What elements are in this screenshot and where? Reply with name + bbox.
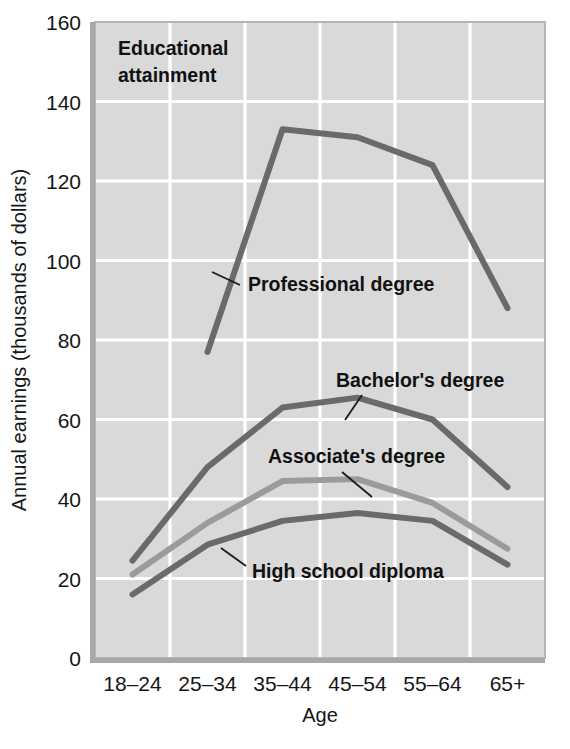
x-axis-title: Age [302, 704, 338, 726]
series-label-2: Associate's degree [268, 445, 445, 467]
y-tick-label-60: 60 [58, 409, 81, 432]
x-tick-label-1: 25–34 [178, 672, 237, 695]
panel-title-line2: attainment [118, 64, 217, 86]
earnings-by-education-line-chart: 020406080100120140160 18–2425–3435–4445–… [0, 0, 570, 749]
y-tick-label-20: 20 [58, 568, 81, 591]
x-tick-label-0: 18–24 [103, 672, 162, 695]
y-tick-label-140: 140 [46, 91, 81, 114]
y-tick-label-0: 0 [69, 647, 81, 670]
x-tick-label-5: 65+ [490, 672, 526, 695]
chart-figure: 020406080100120140160 18–2425–3435–4445–… [0, 0, 570, 749]
x-tick-label-2: 35–44 [253, 672, 312, 695]
plot-frame-bottom-shadow [90, 658, 545, 663]
panel-title-line1: Educational [118, 37, 229, 59]
series-label-3: High school diploma [252, 560, 444, 582]
series-label-1: Bachelor's degree [336, 369, 504, 391]
y-axis-title: Annual earnings (thousands of dollars) [8, 169, 30, 511]
y-tick-label-40: 40 [58, 488, 81, 511]
series-label-0: Professional degree [248, 273, 435, 295]
x-tick-label-3: 45–54 [328, 672, 387, 695]
y-tick-label-120: 120 [46, 170, 81, 193]
y-tick-label-100: 100 [46, 250, 81, 273]
y-tick-label-80: 80 [58, 329, 81, 352]
y-tick-label-160: 160 [46, 11, 81, 34]
plot-frame-left-shadow [90, 22, 95, 663]
x-tick-label-4: 55–64 [403, 672, 462, 695]
